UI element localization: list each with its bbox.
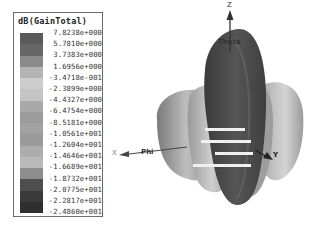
legend-level-label: -1.4646e+001 [49,151,102,160]
legend-level-label: -1.2604e+001 [49,140,102,149]
background-ghost-text [201,140,251,143]
y-axis-label: Y [273,151,278,159]
legend-swatch [20,112,43,123]
legend-level-label: -6.4754e+000 [49,106,102,115]
z-axis-label: Z [227,1,232,9]
legend-level-label: -2.3899e+000 [49,84,102,93]
legend-swatch [20,202,43,213]
legend-swatch [20,44,43,55]
legend-swatch [20,157,43,168]
legend-swatch [20,78,43,89]
legend-swatch [20,67,43,78]
background-ghost-text [205,128,245,131]
pattern-graphic [105,0,311,233]
legend-swatch [20,33,43,44]
color-scale-bar [20,33,43,213]
phi-label: Phi [141,148,154,156]
legend-level-label: -1.0561e+001 [49,129,102,138]
legend-level-label: 7.8238e+000 [53,28,102,37]
legend-level-label: -1.6689e+001 [49,162,102,171]
legend-level-label: 1.6956e+000 [53,62,102,71]
legend-level-label: 3.7383e+000 [53,50,102,59]
legend-title: dB(GainTotal) [18,16,87,26]
color-legend: dB(GainTotal) 7.8238e+0005.7810e+0003.73… [13,12,103,217]
legend-swatch [20,168,43,179]
legend-level-label: -1.8732e+001 [49,174,102,183]
legend-swatch [20,146,43,157]
legend-swatch [20,191,43,202]
legend-level-label: -8.5181e+000 [49,118,102,127]
background-ghost-text [193,164,251,167]
background-ghost-text [215,152,253,155]
legend-swatch [20,89,43,100]
theta-label: Theta [218,38,241,46]
legend-swatch [20,101,43,112]
legend-level-label: -2.0775e+001 [49,185,102,194]
legend-swatch [20,56,43,67]
legend-level-label: -3.4718e-001 [49,73,102,82]
legend-swatch [20,134,43,145]
legend-level-label: 5.7810e+000 [53,39,102,48]
x-axis-label: X [112,149,117,157]
3d-radiation-pattern[interactable]: Z Theta X Phi Y [105,0,311,233]
legend-level-label: -4.4327e+000 [49,95,102,104]
legend-swatch [20,179,43,190]
legend-swatch [20,123,43,134]
legend-level-label: -2.2817e+001 [49,196,102,205]
legend-level-label: -2.4860e+001 [49,207,102,216]
